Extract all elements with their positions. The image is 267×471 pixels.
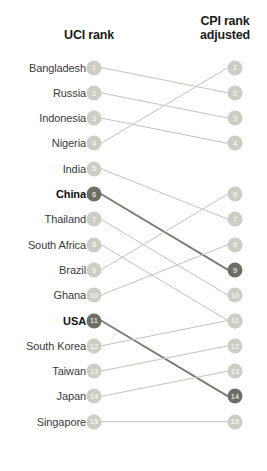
- right-rank-node: 15: [228, 414, 243, 429]
- connection-line: [101, 321, 228, 346]
- connection-line: [101, 118, 228, 143]
- right-rank-node: 4: [228, 136, 243, 151]
- right-rank-node: 2: [228, 85, 243, 100]
- connection-line: [101, 346, 228, 371]
- left-rank-node: 6: [87, 187, 102, 202]
- connection-line: [101, 371, 228, 396]
- left-rank-node: 1: [87, 60, 102, 75]
- row-label: Brazil: [59, 264, 86, 276]
- row-label: USA: [63, 315, 86, 327]
- left-rank-node: 14: [87, 389, 102, 404]
- connection-line: [101, 169, 228, 220]
- right-rank-node: 9: [228, 262, 243, 277]
- left-rank-node: 5: [87, 161, 102, 176]
- right-rank-node: 7: [228, 212, 243, 227]
- row-label: Bangladesh: [29, 62, 86, 74]
- row-label: Ghana: [53, 289, 86, 301]
- right-rank-node: 10: [228, 288, 243, 303]
- right-rank-node: 13: [228, 364, 243, 379]
- left-rank-node: 11: [87, 313, 102, 328]
- row-label: South Africa: [28, 239, 86, 251]
- row-label: Singapore: [37, 416, 86, 428]
- right-rank-node: 14: [228, 389, 243, 404]
- connection-line: [101, 68, 228, 93]
- row-label: Indonesia: [39, 112, 86, 124]
- left-rank-node: 2: [87, 85, 102, 100]
- right-rank-node: 1: [228, 60, 243, 75]
- right-rank-node: 11: [228, 313, 243, 328]
- left-rank-node: 4: [87, 136, 102, 151]
- row-label: Russia: [53, 87, 86, 99]
- connection-line: [101, 245, 228, 296]
- slopegraph-chart: UCI rank CPI rank adjusted BangladeshRus…: [0, 0, 267, 471]
- right-rank-node: 6: [228, 187, 243, 202]
- left-rank-node: 10: [87, 288, 102, 303]
- row-label: China: [56, 188, 86, 200]
- left-rank-node: 13: [87, 364, 102, 379]
- left-rank-node: 9: [87, 262, 102, 277]
- connection-line: [101, 219, 228, 295]
- left-rank-node: 12: [87, 338, 102, 353]
- connection-line: [101, 68, 228, 144]
- row-label: Japan: [57, 390, 86, 402]
- right-rank-node: 3: [228, 111, 243, 126]
- row-label: Thailand: [45, 213, 86, 225]
- left-rank-node: 8: [87, 237, 102, 252]
- row-label: India: [63, 163, 86, 175]
- row-label: South Korea: [26, 340, 86, 352]
- left-rank-node: 7: [87, 212, 102, 227]
- row-label: Nigeria: [52, 137, 86, 149]
- left-rank-node: 3: [87, 111, 102, 126]
- right-rank-node: 12: [228, 338, 243, 353]
- connection-line: [101, 245, 228, 321]
- row-label: Taiwan: [52, 365, 86, 377]
- right-rank-node: 8: [228, 237, 243, 252]
- left-rank-node: 15: [87, 414, 102, 429]
